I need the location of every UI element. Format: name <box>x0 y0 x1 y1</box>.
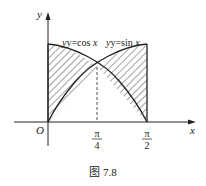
figure-caption: 图 7.8 <box>89 166 117 178</box>
figure-diagram: y x O yy=cos x yy=sin x π 4 π 2 图 7.8 <box>0 0 206 186</box>
svg-text:4: 4 <box>95 140 100 151</box>
origin-label: O <box>36 124 44 136</box>
x-axis-label: x <box>189 124 195 136</box>
svg-text:π: π <box>144 128 149 139</box>
shaded-region-left <box>48 44 97 122</box>
y-axis-label: y <box>36 8 42 20</box>
svg-text:π: π <box>94 128 99 139</box>
tick-label-pi-over-2: π 2 <box>142 128 152 151</box>
tick-label-pi-over-4: π 4 <box>92 128 102 151</box>
cos-curve-label: yy=cos x <box>61 37 98 48</box>
sin-curve-label: yy=sin x <box>105 37 140 48</box>
shaded-region-right <box>97 44 147 122</box>
svg-text:2: 2 <box>145 140 150 151</box>
y-axis-arrow-icon <box>46 12 51 20</box>
